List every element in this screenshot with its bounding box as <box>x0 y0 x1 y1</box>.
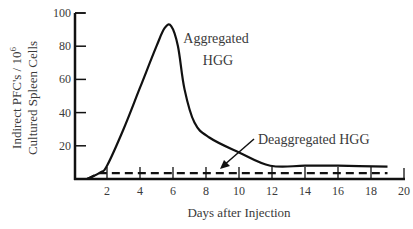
y-tick-label: 60 <box>59 72 71 86</box>
y-ticks: 20406080100 <box>53 6 86 153</box>
deaggregated-hgg-label: Deaggregated HGG <box>258 132 370 147</box>
chart: Indirect PFC's / 106 Cultured Spleen Cel… <box>0 0 413 229</box>
x-tick-label: 4 <box>137 184 143 198</box>
x-tick-label: 8 <box>203 184 209 198</box>
y-tick-label: 80 <box>59 39 71 53</box>
x-ticks: 2468101214161820 <box>104 167 410 198</box>
aggregated-hgg-label-line1: Aggregated <box>183 31 248 46</box>
y-axis-label-line1: Indirect PFC's / 10 <box>9 52 24 149</box>
y-axis-label-line2: Cultured Spleen Cells <box>25 41 40 155</box>
x-tick-label: 16 <box>332 184 344 198</box>
x-tick-label: 14 <box>299 184 311 198</box>
x-tick-label: 18 <box>365 184 377 198</box>
y-tick-label: 40 <box>59 106 71 120</box>
aggregated-hgg-label-line2: HGG <box>203 53 233 68</box>
x-tick-label: 20 <box>398 184 410 198</box>
x-tick-label: 12 <box>266 184 278 198</box>
x-tick-label: 2 <box>104 184 110 198</box>
y-axis-label: Indirect PFC's / 106 Cultured Spleen Cel… <box>8 41 40 155</box>
x-tick-label: 6 <box>170 184 176 198</box>
arrow-icon <box>220 139 254 169</box>
y-axis-label-superscript: 6 <box>8 47 18 52</box>
x-tick-label: 10 <box>233 184 245 198</box>
aggregated-hgg-line <box>87 24 387 179</box>
x-axis-label: Days after Injection <box>187 205 291 220</box>
y-tick-label: 20 <box>59 139 71 153</box>
y-tick-label: 100 <box>53 6 71 20</box>
svg-text:Indirect PFC's / 106: Indirect PFC's / 106 <box>8 47 24 149</box>
